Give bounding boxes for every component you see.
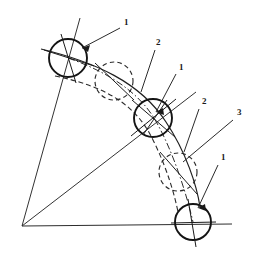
technical-diagram: 1 2 1 2 3 1	[0, 0, 255, 278]
guide-path-arcs	[41, 49, 200, 222]
label-1-middle: 1	[179, 62, 184, 72]
label-2-upper: 2	[156, 37, 161, 47]
leader-lines-group	[82, 28, 233, 211]
leader-1-bottom	[198, 165, 218, 208]
roller-bottom-crosshair-axis-a	[171, 222, 216, 223]
label-1-top: 1	[124, 17, 129, 27]
diagram-canvas: 1 2 1 2 3 1	[0, 0, 255, 278]
envelope-arc-inner	[55, 76, 178, 212]
leader-2-lower	[184, 109, 199, 152]
leader-1-middle	[156, 74, 176, 112]
leader-1-top	[82, 28, 120, 48]
label-1-bottom: 1	[221, 152, 226, 162]
label-3-right: 3	[237, 107, 242, 117]
radial-line-to-middle-roller	[22, 92, 196, 226]
roller-top-group	[44, 34, 94, 83]
leader-2-upper	[141, 50, 155, 92]
leader-3-right	[183, 120, 233, 162]
label-2-lower: 2	[202, 96, 207, 106]
auxiliary-axis-lines	[95, 63, 197, 194]
radial-construction-lines	[22, 18, 232, 226]
roller-middle-group	[131, 99, 176, 137]
axis-line-upper-phantom	[95, 63, 134, 100]
baseline-horizontal	[22, 224, 232, 226]
roller-bottom-group	[171, 199, 216, 247]
roller-center-path	[68, 58, 193, 222]
